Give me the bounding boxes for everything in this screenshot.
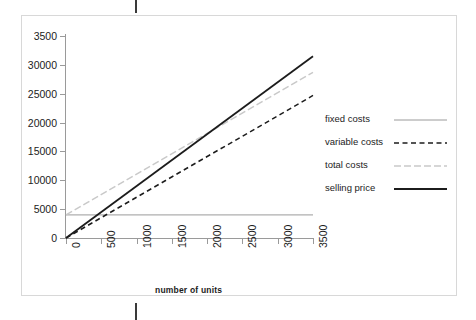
series-line-total-costs [66, 72, 313, 215]
legend-item-label: selling price [325, 182, 375, 193]
legend-item[interactable]: total costs [325, 156, 447, 179]
series-line-variable-costs [66, 95, 313, 238]
series-line-selling-price [66, 56, 313, 238]
legend-item[interactable]: variable costs [325, 133, 447, 156]
legend-item-swatch [394, 141, 447, 145]
legend-item-label: variable costs [325, 136, 383, 147]
chart-legend: fixed costsvariable coststotal costssell… [325, 110, 447, 202]
legend-item-swatch [394, 118, 447, 122]
x-axis-title: number of units [155, 285, 222, 295]
legend-item-label: total costs [325, 159, 368, 170]
legend-item[interactable]: selling price [325, 179, 447, 202]
legend-item-swatch [394, 164, 447, 168]
legend-item-label: fixed costs [325, 113, 370, 124]
legend-item[interactable]: fixed costs [325, 110, 447, 133]
legend-item-swatch [394, 187, 447, 191]
